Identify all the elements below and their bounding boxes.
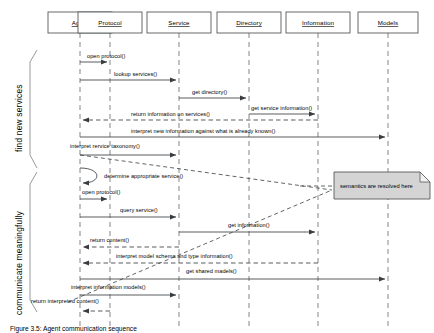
message-label: get shared madels()	[186, 268, 237, 274]
message-return-interpreted-content[interactable]: return interpreted content()	[31, 298, 110, 311]
participant-protocol[interactable]: Protocol	[78, 12, 142, 33]
participant-label: Models	[378, 19, 399, 26]
message-label: return information on services()	[131, 111, 210, 117]
message-lookup-services[interactable]: lookup services()	[80, 71, 176, 80]
phase-label-communicate-meaningfully: communicate meaningfully	[14, 210, 24, 315]
message-self-loop[interactable]	[80, 168, 97, 183]
participant-label: Protocol	[98, 19, 122, 26]
message-open-protocol-1[interactable]: open protocol()	[80, 53, 125, 62]
semantics-note[interactable]: semantics are resolved here	[334, 172, 430, 199]
message-label: interpret model schema and type informat…	[116, 253, 233, 259]
message-label: interpret new information against what i…	[131, 128, 275, 134]
message-get-directory[interactable]: get directory()	[179, 89, 246, 98]
message-label: interpret rervice taxonomy()	[70, 143, 140, 149]
phase-brackets	[30, 50, 37, 312]
message-interpret-model-schema[interactable]: interpret model schema and type informat…	[83, 253, 318, 263]
note-text: semantics are resolved here	[340, 183, 413, 189]
participant-label: Directory	[236, 19, 262, 26]
message-interpret-information-models[interactable]: interpret information models()	[71, 284, 176, 295]
message-label: open protocol()	[82, 189, 120, 195]
message-return-information-on-services[interactable]: return information on services()	[83, 111, 318, 120]
participant-information[interactable]: Information	[286, 12, 350, 33]
figure-caption: Figure 3.5: Agent communication sequence	[10, 325, 137, 333]
message-label: query service()	[120, 207, 158, 213]
message-label: return content()	[90, 237, 129, 243]
participant-models[interactable]: Models	[358, 12, 418, 33]
message-label: get service information()	[251, 105, 312, 111]
message-query-service[interactable]: query service()	[80, 207, 176, 217]
message-get-shared-models[interactable]: get shared madels()	[80, 268, 385, 279]
participant-label: Service	[168, 19, 190, 26]
message-get-service-information[interactable]: get service information()	[249, 105, 315, 114]
message-label: lookup services()	[114, 71, 157, 77]
phase-label-text: find new services	[14, 84, 24, 152]
message-label: get directory()	[192, 89, 227, 95]
message-label: determine appropriate service()	[104, 173, 183, 179]
phase-label-text: communicate meaningfully	[14, 210, 24, 315]
note-fold-corner	[420, 172, 430, 182]
participant-service[interactable]: Service	[147, 12, 211, 33]
participant-directory[interactable]: Directory	[217, 12, 281, 33]
sequence-diagram-figure: find new services communicate meaningful…	[0, 0, 434, 333]
message-interpret-service-taxonomy[interactable]: interpret rervice taxonomy()	[70, 143, 176, 155]
message-get-information[interactable]: get information()	[179, 222, 315, 232]
figure-caption-text: Figure 3.5: Agent communication sequence	[10, 325, 137, 333]
participant-label: Information	[302, 19, 335, 26]
message-return-content[interactable]: return content()	[83, 237, 179, 247]
uml-sequence-diagram: find new services communicate meaningful…	[0, 0, 434, 333]
message-label: open protocol()	[87, 53, 125, 59]
phase-label-find-new-services: find new services	[14, 84, 24, 152]
message-label: return interpreted content()	[31, 298, 99, 304]
message-open-protocol-2[interactable]: open protocol()	[80, 189, 120, 199]
message-determine-appropriate-service[interactable]: determine appropriate service()	[80, 168, 183, 183]
message-interpret-new-information[interactable]: interpret new information against what i…	[80, 128, 385, 137]
